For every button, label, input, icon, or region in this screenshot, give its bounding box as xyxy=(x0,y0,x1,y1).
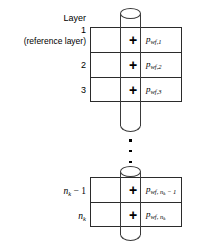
completion-marker-icon: + xyxy=(126,183,140,197)
layer-number-1: 1 xyxy=(0,25,86,35)
ellipsis-dot xyxy=(129,139,132,142)
layer-cell-nk: + pwf, nk xyxy=(90,202,182,227)
wellbore-cylinder-upper-top-cap xyxy=(120,8,141,19)
wellbore-cylinder-lower-top-cap xyxy=(120,166,141,177)
layer-cell-1: + pwf,1 xyxy=(90,27,182,52)
layer-number-2: 2 xyxy=(0,60,86,70)
completion-marker-icon: + xyxy=(126,208,140,222)
layer-cell-2: + pwf,2 xyxy=(90,52,182,77)
completion-marker-icon: + xyxy=(126,33,140,47)
reference-layer-note: (reference layer) xyxy=(0,36,86,46)
layer-number-nk-minus-1-op: − 1 xyxy=(71,186,86,196)
vertical-ellipsis-icon xyxy=(120,139,141,163)
layer-cell-nk-minus-1: + pwf, nk − 1 xyxy=(90,177,182,202)
completion-marker-icon: + xyxy=(126,58,140,72)
pressure-subscript: wf,2 xyxy=(151,63,162,70)
layer-number-nk: nk xyxy=(0,211,86,224)
pressure-label-1: pwf,1 xyxy=(146,34,162,45)
pressure-subscript: wf,1 xyxy=(151,38,162,45)
ellipsis-dot xyxy=(129,150,132,153)
completion-marker-icon: + xyxy=(126,83,140,97)
reservoir-layer-diagram: Layer 1 (reference layer) 2 3 nk − 1 nk … xyxy=(0,0,199,246)
pressure-subscript-prefix: wf, xyxy=(151,188,160,195)
pressure-subscript: wf,3 xyxy=(151,88,162,95)
pressure-label-nk: pwf, nk xyxy=(146,209,165,221)
pressure-subscript-k: k xyxy=(163,216,165,221)
ellipsis-dot xyxy=(129,161,132,164)
pressure-label-nk-minus-1: pwf, nk − 1 xyxy=(146,184,176,196)
pressure-subscript-minus-one: − 1 xyxy=(165,188,176,195)
wellbore-cylinder-lower-bottom xyxy=(120,227,141,241)
layer-cell-3: + pwf,3 xyxy=(90,77,182,102)
pressure-label-2: pwf,2 xyxy=(146,59,162,70)
layer-number-nk-minus-1: nk − 1 xyxy=(0,186,86,199)
pressure-label-3: pwf,3 xyxy=(146,84,162,95)
layer-number-3: 3 xyxy=(0,85,86,95)
wellbore-cylinder-upper-bottom xyxy=(120,118,141,132)
layer-number-nk-sub: k xyxy=(83,215,86,222)
layer-header-label: Layer xyxy=(0,13,86,23)
pressure-subscript-prefix: wf, xyxy=(151,213,160,220)
